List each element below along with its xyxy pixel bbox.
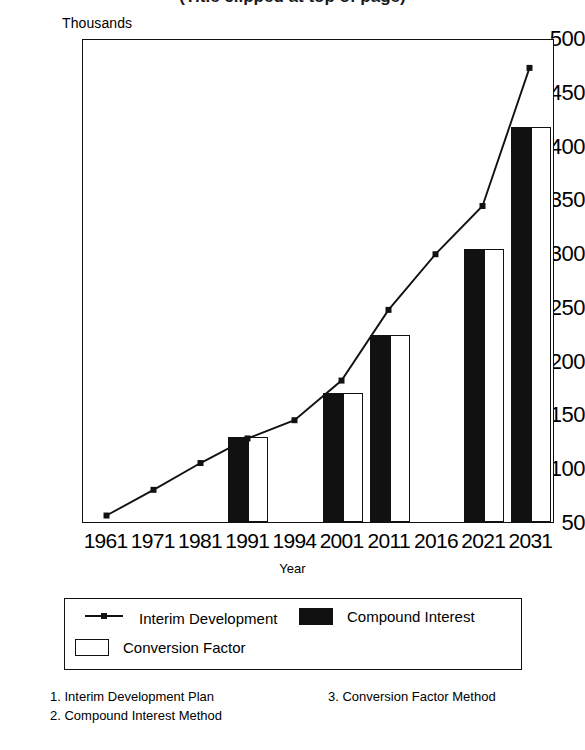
x-axis-tick-label: 2001 xyxy=(320,530,364,551)
legend-item-interim-development: Interim Development xyxy=(83,609,277,627)
footnote: 1. Interim Development Plan xyxy=(50,688,222,707)
chart-container: Thousands 50045040035030025020015010050 … xyxy=(0,10,585,585)
legend-label: Compound Interest xyxy=(347,608,475,625)
x-axis-tick-label: 2021 xyxy=(461,530,505,551)
legend-item-conversion-factor: Conversion Factor xyxy=(75,639,246,656)
x-axis-tick-label: 1971 xyxy=(131,530,175,551)
x-axis-tick-label: 1981 xyxy=(178,530,222,551)
footnote: 3. Conversion Factor Method xyxy=(328,688,496,707)
page-title: (Title clipped at top of page) xyxy=(0,0,585,7)
legend: Interim Development Compound Interest Co… xyxy=(64,598,522,670)
line-data-point-marker xyxy=(245,435,251,441)
plot-area xyxy=(82,39,554,523)
line-series-layer xyxy=(83,40,553,522)
line-data-point-marker xyxy=(480,203,486,209)
x-axis-tick-label: 1994 xyxy=(272,530,316,551)
footnote: 2. Compound Interest Method xyxy=(50,707,222,726)
line-data-point-marker xyxy=(339,378,345,384)
hollow-bar-swatch-icon xyxy=(75,639,109,656)
line-interim-development xyxy=(107,68,530,516)
plot-inner xyxy=(83,40,553,522)
line-data-point-marker xyxy=(104,513,110,519)
footnotes-left-column: 1. Interim Development Plan2. Compound I… xyxy=(50,688,222,726)
legend-item-compound-interest: Compound Interest xyxy=(299,608,475,625)
legend-label: Conversion Factor xyxy=(123,639,246,656)
x-axis-tick-label: 2011 xyxy=(368,530,410,551)
x-axis-title: Year xyxy=(0,561,585,576)
line-data-point-marker xyxy=(198,460,204,466)
line-data-point-marker xyxy=(527,65,533,71)
chart-page: (Title clipped at top of page) Thousands… xyxy=(0,0,585,750)
y-axis-unit-label: Thousands xyxy=(62,15,132,31)
line-data-point-marker xyxy=(292,417,298,423)
line-data-point-marker xyxy=(386,307,392,313)
line-data-point-marker xyxy=(433,251,439,257)
clipped-title: (Title clipped at top of page) xyxy=(0,0,585,9)
x-axis-tick-label: 2031 xyxy=(508,530,552,551)
legend-label: Interim Development xyxy=(139,610,277,627)
line-data-point-marker xyxy=(151,487,157,493)
x-axis-tick-label: 1991 xyxy=(225,530,269,551)
x-axis-tick-label: 1961 xyxy=(84,530,128,551)
x-axis-tick-label: 2016 xyxy=(414,530,458,551)
solid-bar-swatch-icon xyxy=(299,608,333,625)
line-marker-swatch-icon xyxy=(83,609,125,627)
footnotes-right-column: 3. Conversion Factor Method xyxy=(328,688,496,707)
